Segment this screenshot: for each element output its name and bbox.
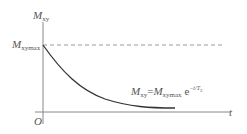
y-axis-label: Mxy — [33, 10, 49, 23]
max-level-label: Mxymax — [12, 39, 40, 52]
decay-formula: Mxy=Mxymax e−t/T2 — [131, 85, 203, 99]
x-axis-label: t — [229, 107, 232, 118]
origin-label: O — [34, 116, 42, 127]
